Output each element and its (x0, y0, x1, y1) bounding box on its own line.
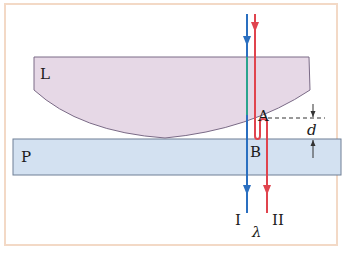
plate-label: P (21, 148, 31, 166)
arrow-down-icon (311, 111, 316, 117)
plano-convex-lens (34, 57, 310, 138)
arrow-down-icon (243, 36, 251, 46)
arrow-down-icon (243, 185, 251, 195)
ray-2-label: II (272, 211, 284, 229)
point-a-label: A (257, 107, 269, 125)
diagram-canvas: L P A B d I II λ (0, 0, 343, 254)
lens-label: L (40, 65, 50, 83)
glass-plate (13, 139, 341, 175)
arrow-down-icon (251, 22, 259, 32)
wavelength-label: λ (251, 223, 262, 241)
arrow-down-icon (263, 185, 271, 195)
gap-label: d (307, 121, 317, 139)
ray-1-label: I (235, 211, 241, 229)
point-b-label: B (250, 143, 261, 161)
